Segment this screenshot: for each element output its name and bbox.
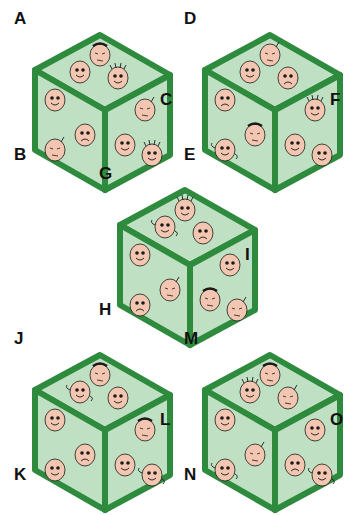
face-sad bbox=[193, 222, 213, 244]
cube-ghi: GHI bbox=[95, 170, 265, 350]
face-smile bbox=[215, 409, 235, 431]
face-sad bbox=[75, 444, 95, 466]
face-label-top: A bbox=[14, 9, 26, 29]
face-label-left: N bbox=[184, 465, 196, 485]
face-label-right: L bbox=[160, 410, 170, 430]
face-neutral-hat bbox=[135, 419, 155, 442]
face-smile bbox=[220, 254, 240, 276]
face-label-left: B bbox=[14, 145, 26, 165]
face-sad bbox=[278, 67, 298, 89]
face-smile-spiky bbox=[305, 95, 325, 121]
cube-abc: ABC bbox=[10, 15, 180, 195]
face-label-right: C bbox=[160, 90, 172, 110]
cube-mno: MNO bbox=[180, 335, 348, 515]
face-smile-spiky bbox=[175, 195, 195, 221]
face-neutral-hat bbox=[90, 44, 110, 67]
face-smile bbox=[45, 459, 65, 481]
face-label-right: I bbox=[245, 245, 250, 265]
face-smile-spiky bbox=[108, 63, 128, 89]
cube-def: DEF bbox=[180, 15, 348, 195]
face-smile-spiky bbox=[142, 140, 162, 166]
face-label-left: K bbox=[14, 465, 26, 485]
face-smile-spiky bbox=[240, 377, 260, 403]
face-smile bbox=[130, 244, 150, 266]
face-smile bbox=[45, 409, 65, 431]
face-neutral-hat bbox=[245, 124, 265, 147]
face-smile bbox=[115, 454, 135, 476]
face-smile bbox=[115, 134, 135, 156]
face-label-left: H bbox=[99, 300, 111, 320]
face-label-top: G bbox=[99, 164, 112, 184]
face-smile bbox=[70, 61, 90, 83]
face-smile bbox=[240, 61, 260, 83]
face-smile bbox=[285, 134, 305, 156]
face-smile bbox=[45, 89, 65, 111]
face-sad bbox=[215, 89, 235, 111]
face-neutral-hat bbox=[200, 289, 220, 312]
cube-jkl: JKL bbox=[10, 335, 180, 515]
face-neutral-hat bbox=[260, 364, 280, 387]
face-sad bbox=[285, 454, 305, 476]
face-neutral-hat bbox=[90, 364, 110, 387]
face-smile bbox=[312, 144, 332, 166]
face-label-top: D bbox=[184, 9, 196, 29]
face-smile bbox=[108, 387, 128, 409]
face-label-left: E bbox=[184, 145, 195, 165]
face-sad bbox=[75, 124, 95, 146]
face-sad bbox=[130, 294, 150, 316]
face-label-right: O bbox=[330, 410, 343, 430]
face-label-top: M bbox=[184, 329, 198, 349]
face-label-top: J bbox=[14, 329, 23, 349]
face-label-right: F bbox=[330, 90, 340, 110]
face-smile bbox=[305, 419, 325, 441]
